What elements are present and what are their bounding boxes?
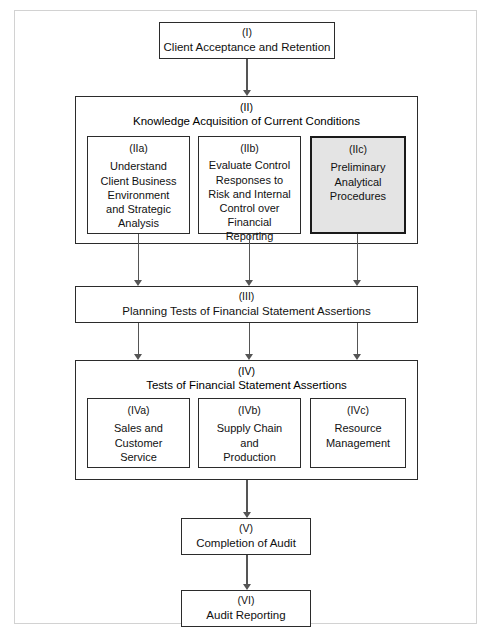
stage-iv-title: Tests of Financial Statement Assertions	[75, 379, 418, 391]
stage-i-title: Client Acceptance and Retention	[160, 40, 334, 55]
stage-vi-box: (VI) Audit Reporting	[181, 590, 311, 627]
stage-ivb-box: (IVb) Supply Chain and Production	[198, 398, 301, 468]
audit-process-flowchart: (I) Client Acceptance and Retention (II)…	[0, 0, 491, 644]
connector-iib-to-iii	[249, 234, 250, 282]
stage-iia-roman: (IIa)	[88, 142, 189, 155]
stage-iic-title: Preliminary Analytical Procedures	[312, 160, 404, 202]
stage-iii-title: Planning Tests of Financial Statement As…	[76, 304, 417, 319]
stage-iib-box: (IIb) Evaluate Control Responses to Risk…	[198, 136, 301, 234]
stage-iia-title: Understand Client Business Environment a…	[88, 159, 189, 229]
connector-iia-to-iii	[138, 234, 139, 282]
stage-ii-roman: (II)	[75, 101, 418, 113]
connector-iii-to-iva	[138, 323, 139, 356]
stage-iva-box: (IVa) Sales and Customer Service	[87, 398, 190, 468]
stage-i-box: (I) Client Acceptance and Retention	[159, 22, 335, 59]
connector-iv-to-v	[246, 480, 247, 514]
stage-ivb-roman: (IVb)	[199, 404, 300, 417]
stage-ivc-box: (IVc) Resource Management	[310, 398, 406, 468]
connector-v-to-vi	[246, 555, 247, 586]
stage-ivc-roman: (IVc)	[311, 404, 405, 417]
stage-iv-roman: (IV)	[75, 365, 418, 377]
stage-ivc-title: Resource Management	[311, 421, 405, 449]
stage-iia-box: (IIa) Understand Client Business Environ…	[87, 136, 190, 234]
stage-iib-roman: (IIb)	[199, 142, 300, 155]
stage-iib-title: Evaluate Control Responses to Risk and I…	[199, 158, 300, 242]
connector-iii-to-ivb	[249, 323, 250, 356]
connector-iic-to-iii	[357, 234, 358, 282]
stage-v-box: (V) Completion of Audit	[181, 518, 311, 555]
stage-iva-roman: (IVa)	[88, 404, 189, 417]
stage-ii-title: Knowledge Acquisition of Current Conditi…	[75, 115, 418, 127]
connector-i-to-ii	[246, 59, 247, 92]
stage-v-title: Completion of Audit	[182, 536, 310, 551]
stage-iii-box: (III) Planning Tests of Financial Statem…	[75, 286, 418, 323]
stage-v-roman: (V)	[182, 522, 310, 535]
connector-iii-to-ivc	[357, 323, 358, 356]
stage-iii-roman: (III)	[76, 290, 417, 303]
stage-iic-box: (IIc) Preliminary Analytical Procedures	[310, 136, 406, 234]
stage-ivb-title: Supply Chain and Production	[199, 421, 300, 463]
stage-iic-roman: (IIc)	[312, 143, 404, 156]
stage-vi-roman: (VI)	[182, 594, 310, 607]
stage-vi-title: Audit Reporting	[182, 608, 310, 623]
stage-iva-title: Sales and Customer Service	[88, 421, 189, 463]
stage-i-roman: (I)	[160, 26, 334, 39]
